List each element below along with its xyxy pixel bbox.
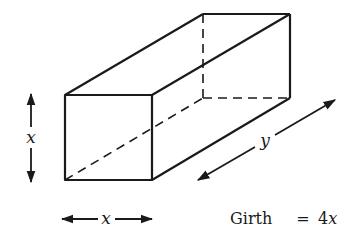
front-face: [65, 95, 152, 180]
box-diagram: x x y Girth = 4x: [0, 0, 354, 231]
hidden-edge-bottom-left-depth: [65, 98, 203, 180]
edge-top-left-depth: [65, 14, 203, 95]
height-label: x: [26, 127, 36, 147]
width-label: x: [101, 208, 111, 228]
girth-value: 4x: [318, 209, 337, 228]
length-label: y: [259, 130, 270, 150]
length-arrow-down-left: [198, 147, 255, 180]
length-arrow-up-right: [275, 100, 335, 135]
box: [65, 14, 290, 180]
girth-word: Girth: [230, 209, 272, 228]
girth-equals: =: [296, 209, 309, 228]
girth-formula: Girth = 4x: [230, 209, 337, 228]
hidden-edges: [65, 14, 290, 180]
edge-top-right-depth: [152, 14, 290, 95]
